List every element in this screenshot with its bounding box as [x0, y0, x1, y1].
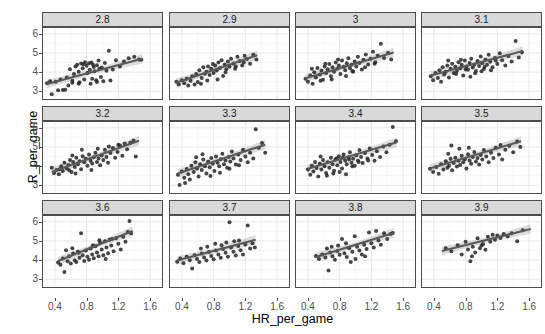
gridlines: [296, 122, 415, 193]
x-tick-label: 1.6: [270, 302, 284, 312]
panel-plot-area: [42, 27, 163, 100]
x-tick-label: 1.6: [396, 302, 410, 312]
scatter-points: [175, 220, 257, 270]
x-tick-label: 0.8: [459, 302, 473, 312]
facet-panel-3-8: 3.8: [295, 200, 416, 288]
x-axis-title: HR_per_game: [40, 312, 545, 326]
x-tick-label: 0.4: [427, 302, 441, 312]
gridlines: [170, 216, 289, 287]
y-tick-label: 4: [32, 255, 38, 265]
facet-strip-label: 3.5: [421, 106, 542, 121]
x-tick-mark: [434, 298, 435, 301]
facet-panel-2-9: 2.9: [169, 12, 290, 100]
x-tick-label: 0.8: [333, 302, 347, 312]
panel-svg: [296, 28, 415, 99]
facet-strip-label: 3.4: [295, 106, 416, 121]
y-tick-label: 5: [32, 48, 38, 58]
x-tick-mark: [497, 298, 498, 301]
x-tick-mark: [403, 298, 404, 301]
facet-panel-3-5: 3.5: [421, 106, 542, 194]
x-tick-mark: [182, 298, 183, 301]
regression-line: [430, 141, 521, 168]
y-tick-label: 5: [32, 142, 38, 152]
scatter-points: [304, 42, 394, 86]
x-tick-mark: [529, 298, 530, 301]
panel-svg: [43, 216, 162, 287]
x-tick-mark: [118, 298, 119, 301]
panel-plot-area: [295, 27, 416, 100]
panel-svg: [422, 216, 541, 287]
facet-strip-label: 3.8: [295, 200, 416, 215]
facet-strip-label: 3.3: [169, 106, 290, 121]
x-tick-mark: [55, 298, 56, 301]
panel-svg: [170, 122, 289, 193]
panel-svg: [296, 216, 415, 287]
facet-panel-2-8: 2.8: [42, 12, 163, 100]
x-tick-mark: [466, 298, 467, 301]
panel-plot-area: [169, 121, 290, 194]
panel-svg: [422, 28, 541, 99]
x-tick-mark: [214, 298, 215, 301]
facet-strip-label: 3.6: [42, 200, 163, 215]
x-tick-label: 1.2: [238, 302, 252, 312]
regression-line: [306, 53, 394, 79]
panel-plot-area: [295, 121, 416, 194]
panel-plot-area: [421, 121, 542, 194]
facet-strip-label: 3.7: [169, 200, 290, 215]
panel-plot-area: [42, 215, 163, 288]
facet-panel-3-2: 3.2: [42, 106, 163, 194]
x-tick-mark: [308, 298, 309, 301]
facet-strip-label: 3.9: [421, 200, 542, 215]
y-tick-label: 3: [32, 86, 38, 96]
facet-panel-3-3: 3.3: [169, 106, 290, 194]
x-tick-mark: [340, 298, 341, 301]
x-tick-label: 1.2: [490, 302, 504, 312]
gridlines: [43, 28, 162, 99]
panel-plot-area: [421, 27, 542, 100]
facet-panel-3: 3: [295, 12, 416, 100]
scatter-points: [429, 39, 524, 84]
facet-strip-label: 3.2: [42, 106, 163, 121]
gridlines: [43, 122, 162, 193]
panel-plot-area: [169, 27, 290, 100]
facet-scatter-plot: R_per_game 345634563456 2.82.933.13.23.3…: [0, 0, 545, 334]
regression-line: [58, 231, 133, 261]
x-tick-mark: [87, 298, 88, 301]
y-tick-label: 3: [32, 274, 38, 284]
scatter-points: [306, 125, 398, 179]
x-tick-mark: [150, 298, 151, 301]
facet-strip-label: 3: [295, 12, 416, 27]
x-tick-label: 1.6: [143, 302, 157, 312]
y-tick-label: 3: [32, 180, 38, 190]
x-tick-label: 1.2: [364, 302, 378, 312]
facet-panel-3-4: 3.4: [295, 106, 416, 194]
x-tick-label: 1.6: [522, 302, 536, 312]
gridlines: [296, 216, 415, 287]
panel-svg: [43, 28, 162, 99]
x-tick-mark: [245, 298, 246, 301]
y-tick-label: 5: [32, 236, 38, 246]
panel-plot-area: [295, 215, 416, 288]
y-tick-label: 6: [32, 217, 38, 227]
x-tick-label: 0.4: [175, 302, 189, 312]
y-tick-label: 4: [32, 67, 38, 77]
facet-panel-3-9: 3.9: [421, 200, 542, 288]
x-tick-label: 0.4: [301, 302, 315, 312]
facet-panel-3-6: 3.6: [42, 200, 163, 288]
gridlines: [43, 216, 162, 287]
panel-svg: [296, 122, 415, 193]
x-tick-label: 0.8: [80, 302, 94, 312]
gridlines: [422, 122, 541, 193]
facet-strip-label: 3.1: [421, 12, 542, 27]
x-tick-mark: [277, 298, 278, 301]
x-tick-label: 1.2: [111, 302, 125, 312]
x-tick-label: 0.4: [48, 302, 62, 312]
panel-svg: [170, 216, 289, 287]
y-tick-label: 4: [32, 161, 38, 171]
facet-panel-3-7: 3.7: [169, 200, 290, 288]
y-tick-label: 6: [32, 123, 38, 133]
facet-strip-label: 2.8: [42, 12, 163, 27]
facet-strip-label: 2.9: [169, 12, 290, 27]
y-tick-label: 6: [32, 29, 38, 39]
panel-plot-area: [169, 215, 290, 288]
